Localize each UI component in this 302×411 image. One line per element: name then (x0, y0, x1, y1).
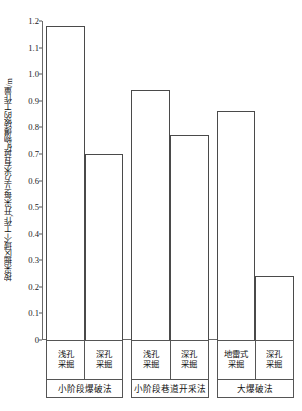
category-cell-line2: 采掘 (58, 360, 74, 371)
group-label: 大爆破法 (217, 380, 294, 398)
bar (217, 111, 256, 340)
bar (85, 154, 124, 340)
y-axis-title-text: 按采掘区域个工作,开采每立方米有益矿物爆破的工作量/m (5, 78, 15, 281)
category-cell: 深孔采掘 (84, 341, 122, 379)
y-axis-tick-label: 0.1 (28, 309, 39, 318)
y-axis-tick-label: 1.1 (28, 43, 39, 52)
group-label: 小阶段巷道开采法 (131, 380, 208, 398)
y-axis-tick-label: 0.5 (28, 203, 39, 212)
y-axis-line (42, 21, 43, 340)
category-cell: 浅孔采掘 (47, 341, 84, 379)
category-cell-line2: 采掘 (143, 360, 159, 371)
category-group: 浅孔采掘深孔采掘小阶段巷道开采法 (131, 340, 208, 402)
y-axis-tick-label: 0.8 (28, 123, 39, 132)
category-cell-line2: 采掘 (181, 360, 197, 371)
y-axis-tick-labels: 1.21.11.00.90.80.70.60.50.40.30.20.10 (18, 0, 42, 411)
y-axis-tick-label: 0.7 (28, 149, 39, 158)
category-label-table: 浅孔采掘深孔采掘小阶段爆破法浅孔采掘深孔采掘小阶段巷道开采法地雷式采掘深孔采掘大… (42, 340, 294, 402)
category-cell-line2: 采掘 (96, 360, 112, 371)
bar (255, 276, 294, 340)
y-axis-tick-label: 0.4 (28, 229, 39, 238)
category-subrow: 浅孔采掘深孔采掘 (46, 340, 123, 380)
y-axis-tick-label: 0.6 (28, 176, 39, 185)
y-axis-title: 按采掘区域个工作,开采每立方米有益矿物爆破的工作量/m (2, 18, 18, 340)
category-cell-line1: 浅孔 (58, 350, 74, 361)
y-axis-tick-label: 0.9 (28, 96, 39, 105)
bar (131, 90, 170, 340)
category-cell: 深孔采掘 (255, 341, 293, 379)
category-cell-line1: 浅孔 (143, 350, 159, 361)
y-axis-tick-label: 0.2 (28, 282, 39, 291)
category-cell-line2: 采掘 (266, 360, 282, 371)
category-cell-line1: 深孔 (266, 350, 282, 361)
category-cell-line1: 深孔 (181, 350, 197, 361)
category-cell: 浅孔采掘 (132, 341, 169, 379)
y-axis-tick-label: 0.3 (28, 256, 39, 265)
category-cell: 地雷式采掘 (218, 341, 255, 379)
y-axis-tick-label: 1.2 (28, 17, 39, 26)
y-axis-tick-label: 1.0 (28, 70, 39, 79)
category-cell-line2: 采掘 (228, 360, 244, 371)
category-group: 浅孔采掘深孔采掘小阶段爆破法 (46, 340, 123, 402)
bar (170, 135, 209, 340)
plot-area (42, 21, 294, 340)
category-subrow: 地雷式采掘深孔采掘 (217, 340, 294, 380)
category-subrow: 浅孔采掘深孔采掘 (131, 340, 208, 380)
category-cell-line1: 地雷式 (224, 350, 248, 361)
group-label: 小阶段爆破法 (46, 380, 123, 398)
category-cell-line1: 深孔 (96, 350, 112, 361)
bar-chart-figure: 按采掘区域个工作,开采每立方米有益矿物爆破的工作量/m 1.21.11.00.9… (0, 0, 302, 411)
bar (46, 26, 85, 340)
category-cell: 深孔采掘 (170, 341, 208, 379)
category-group: 地雷式采掘深孔采掘大爆破法 (217, 340, 294, 402)
